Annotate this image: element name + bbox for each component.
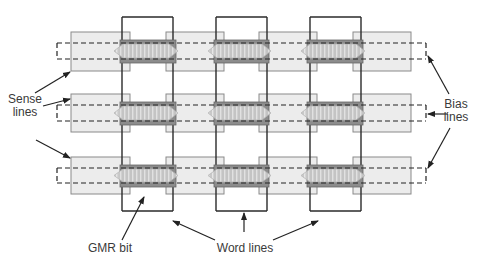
arrow-word-line-3 — [273, 221, 318, 240]
arrow-gmr-bit — [122, 197, 144, 240]
arrow-sense-line-1 — [35, 72, 70, 93]
gmr-bit-r2-c3 — [301, 106, 365, 120]
gmr-bit-r1-c2 — [208, 44, 271, 58]
gmr-bit-r3-c1 — [114, 169, 178, 182]
word-lines-text: Word lines — [209, 242, 281, 255]
sense-label-line2: lines — [4, 106, 46, 119]
gmr-bit-r3-c3 — [301, 169, 365, 182]
gmr-bit-label: GMR bit — [84, 242, 136, 255]
bias-label-line2: lines — [436, 111, 476, 124]
arrow-bias-line-1 — [428, 56, 449, 94]
bias-lines-label: Bias lines — [436, 98, 476, 124]
word-lines-label: Word lines — [209, 242, 281, 255]
gmr-bit-r1-c3 — [301, 44, 365, 58]
gmr-bit-r3-c2 — [208, 169, 271, 182]
annotation-arrows — [35, 56, 450, 240]
sense-lines-label: Sense lines — [4, 93, 46, 119]
arrow-word-line-1 — [173, 221, 215, 240]
arrow-bias-line-3 — [428, 128, 450, 168]
gmr-bit-r1-c1 — [114, 44, 178, 58]
arrow-sense-line-3 — [36, 140, 70, 158]
gmr-bit-r2-c2 — [208, 106, 271, 120]
gmr-bit-r2-c1 — [114, 106, 178, 120]
gmr-array-diagram — [0, 0, 485, 264]
gmr-cells — [114, 40, 365, 187]
gmr-bit-text: GMR bit — [84, 242, 136, 255]
